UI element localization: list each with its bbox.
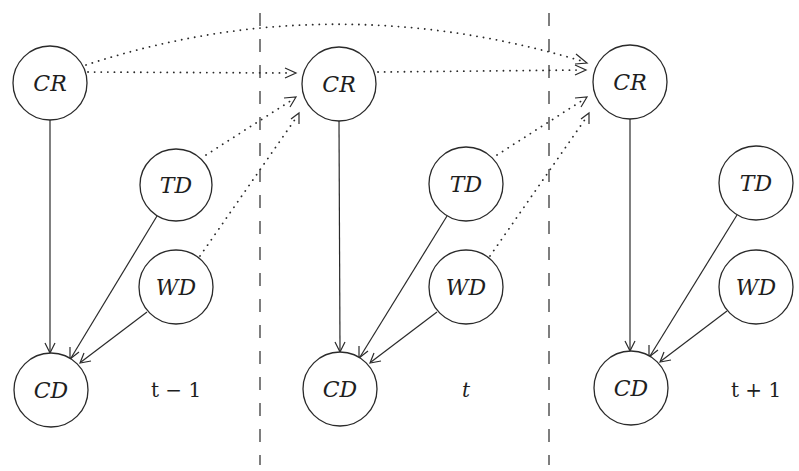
node-label: CD xyxy=(614,376,649,401)
node-cd-tplus1: CD xyxy=(594,351,668,425)
node-label: TD xyxy=(160,173,193,198)
node-label: CR xyxy=(33,71,66,96)
node-label: CD xyxy=(34,378,69,403)
slice-label-t: t xyxy=(462,378,471,402)
node-label: TD xyxy=(450,172,483,197)
edge-td-t-to-cr-tplus1 xyxy=(497,100,583,155)
node-wd-t: WD xyxy=(429,250,503,324)
arrowhead-icon xyxy=(575,54,587,64)
arrowhead-icon xyxy=(581,113,589,124)
slice-label-tminus1: t − 1 xyxy=(151,378,201,402)
edge-cr-t-to-cr-tplus1 xyxy=(378,70,582,72)
node-label: CD xyxy=(323,377,358,402)
edge-wd-cd-t xyxy=(371,312,437,362)
edge-cr-tminus1-to-cr-t xyxy=(88,72,292,73)
slice-label-tplus1: t + 1 xyxy=(731,378,781,402)
node-label: WD xyxy=(156,275,197,300)
node-cd-t: CD xyxy=(303,352,377,426)
dbn-diagram: CR TD WD CD CR TD WD CD CR TD WD xyxy=(0,0,799,471)
edge-wd-cd-tplus1 xyxy=(661,311,727,361)
node-label: CR xyxy=(322,72,355,97)
edge-cr-cd-t xyxy=(339,121,340,351)
node-label: WD xyxy=(446,275,487,300)
node-td-t: TD xyxy=(429,147,503,221)
node-cr-tplus1: CR xyxy=(593,45,667,119)
node-wd-tplus1: WD xyxy=(719,250,793,324)
node-label: WD xyxy=(736,275,777,300)
node-label: TD xyxy=(740,171,773,196)
edge-wd-cd-tminus1 xyxy=(81,312,147,362)
node-td-tminus1: TD xyxy=(140,149,212,221)
node-cd-tminus1: CD xyxy=(14,353,88,427)
edge-wd-tminus1-to-cr-t xyxy=(200,118,296,256)
node-cr-tminus1: CR xyxy=(13,46,87,120)
node-td-tplus1: TD xyxy=(719,146,793,220)
edge-td-tminus1-to-cr-t xyxy=(206,100,292,155)
edge-wd-t-to-cr-tplus1 xyxy=(490,118,586,256)
node-label: CR xyxy=(613,70,646,95)
arrowhead-icon xyxy=(291,113,299,124)
node-cr-t: CR xyxy=(302,47,376,121)
node-wd-tminus1: WD xyxy=(139,250,213,324)
